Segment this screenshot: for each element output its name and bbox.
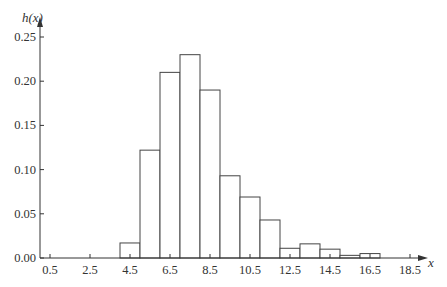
y-axis: 0.000.050.100.150.200.25 <box>14 17 44 265</box>
histogram-bar <box>180 55 200 258</box>
x-tick-label: 4.5 <box>122 263 138 277</box>
histogram-bar <box>160 72 180 258</box>
histogram-chart: 0.000.050.100.150.200.25 0.52.54.56.58.5… <box>0 0 447 287</box>
x-tick-label: 10.5 <box>239 263 261 277</box>
x-axis-arrow-icon <box>418 255 428 261</box>
histogram-bar <box>260 220 280 258</box>
x-tick-label: 16.5 <box>359 263 381 277</box>
histogram-bar <box>220 176 240 258</box>
x-tick-label: 12.5 <box>279 263 301 277</box>
x-tick-label: 0.5 <box>42 263 58 277</box>
histogram-bars <box>120 55 380 258</box>
x-tick-label: 18.5 <box>399 263 421 277</box>
histogram-bar <box>240 197 260 258</box>
x-axis-title: x <box>427 255 434 270</box>
histogram-bar <box>200 90 220 258</box>
x-tick-label: 6.5 <box>162 263 178 277</box>
x-tick-label: 8.5 <box>202 263 218 277</box>
x-tick-label: 14.5 <box>319 263 341 277</box>
x-tick-label: 2.5 <box>82 263 98 277</box>
histogram-bar <box>140 150 160 258</box>
y-tick-label: 0.20 <box>14 74 36 88</box>
y-axis-title: h(x) <box>22 10 43 25</box>
y-tick-label: 0.15 <box>14 118 36 132</box>
y-tick-label: 0.05 <box>14 207 36 221</box>
y-tick-label: 0.10 <box>14 163 36 177</box>
y-tick-label: 0.25 <box>14 30 36 44</box>
y-tick-label: 0.00 <box>14 251 36 265</box>
histogram-bar <box>300 244 320 258</box>
